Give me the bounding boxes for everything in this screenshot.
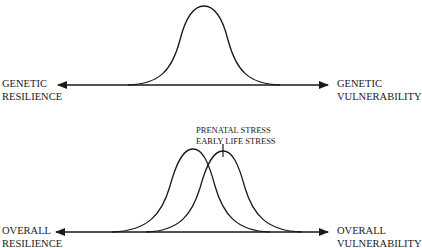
overall-resilience-label: OVERALL RESILIENCE <box>2 224 62 248</box>
label-line: VULNERABILITY <box>337 90 422 103</box>
overall-vulnerability-label: OVERALL VULNERABILITY <box>337 224 422 248</box>
label-line: VULNERABILITY <box>337 237 422 248</box>
genetic-distribution-curve <box>128 6 280 85</box>
genetic-resilience-label: GENETIC RESILIENCE <box>2 77 62 103</box>
label-line: RESILIENCE <box>2 90 62 103</box>
genetic-vulnerability-label: GENETIC VULNERABILITY <box>337 77 422 103</box>
label-line: OVERALL <box>337 224 422 237</box>
label-line: OVERALL <box>2 224 62 237</box>
label-line: GENETIC <box>337 77 422 90</box>
annotation-line: PRENATAL STRESS <box>196 125 276 136</box>
stress-annotation: PRENATAL STRESS EARLY LIFE STRESS <box>196 125 276 147</box>
label-line: GENETIC <box>2 77 62 90</box>
label-line: RESILIENCE <box>2 237 62 248</box>
shifted-distribution-curve <box>146 151 302 232</box>
annotation-line: EARLY LIFE STRESS <box>196 136 276 147</box>
